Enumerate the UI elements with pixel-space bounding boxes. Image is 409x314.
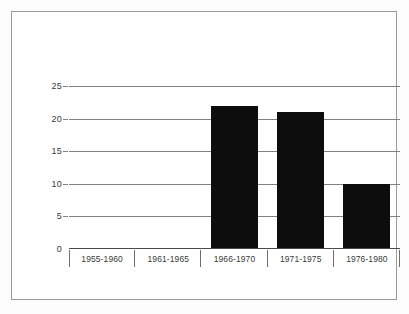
bar[interactable]	[343, 184, 390, 249]
ytick-dash-10	[63, 184, 68, 185]
xtick-cell: 1971-1975	[268, 250, 334, 267]
bar-cell-1976-1980	[334, 86, 400, 249]
xtick-label: 1966-1970	[214, 254, 256, 264]
bar-cell-1966-1970	[201, 86, 267, 249]
ytick-label-0: 0	[57, 244, 62, 254]
xtick-separator	[69, 250, 70, 267]
bar-series	[69, 86, 400, 249]
xtick-label: 1971-1975	[280, 254, 322, 264]
ytick-dash-15	[63, 151, 68, 152]
chart-frame: 25 20 15 10 5 0	[11, 11, 397, 300]
xtick-cell: 1955-1960	[69, 250, 135, 267]
ytick-label-15: 15	[52, 146, 62, 156]
bar-cell-1961-1965	[135, 86, 201, 249]
category-axis: 1955-1960 1961-1965 1966-1970 1971-1975 …	[69, 250, 400, 267]
bar[interactable]	[211, 106, 258, 249]
ytick-dash-20	[63, 119, 68, 120]
ytick-label-20: 20	[52, 114, 62, 124]
ytick-label-5: 5	[57, 211, 62, 221]
xtick-label: 1955-1960	[81, 254, 123, 264]
ytick-label-10: 10	[52, 179, 62, 189]
x-axis-line	[69, 248, 400, 249]
plot-area: 25 20 15 10 5 0	[69, 86, 400, 249]
ytick-label-25: 25	[52, 81, 62, 91]
bar-cell-1971-1975	[268, 86, 334, 249]
ytick-dash-5	[63, 216, 68, 217]
xtick-cell: 1976-1980	[334, 250, 400, 267]
xtick-separator	[399, 250, 400, 267]
bar-cell-1955-1960	[69, 86, 135, 249]
bar[interactable]	[277, 112, 324, 249]
xtick-label: 1961-1965	[148, 254, 190, 264]
ytick-dash-25	[63, 86, 68, 87]
xtick-label: 1976-1980	[346, 254, 388, 264]
xtick-cell: 1961-1965	[135, 250, 201, 267]
xtick-cell: 1966-1970	[201, 250, 267, 267]
chart-figure: 25 20 15 10 5 0	[0, 0, 409, 314]
